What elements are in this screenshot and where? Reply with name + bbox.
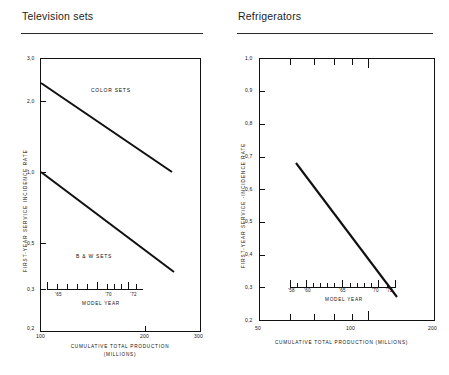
panel-refrigerators: Refrigerators FIRST-YEAR SERVICE -INCIDE… [224,0,449,375]
series-line-color-sets [41,83,172,172]
plot-canvas-refrigerators [224,0,449,375]
panel-television-sets: Television sets FIRST-YEAR SERVICE INCID… [0,0,225,375]
series-line-refrigerator-incidence [296,163,397,297]
series-line-bw-sets [41,172,174,272]
plot-canvas-television [0,0,225,375]
figure-page: Television sets FIRST-YEAR SERVICE INCID… [0,0,449,375]
